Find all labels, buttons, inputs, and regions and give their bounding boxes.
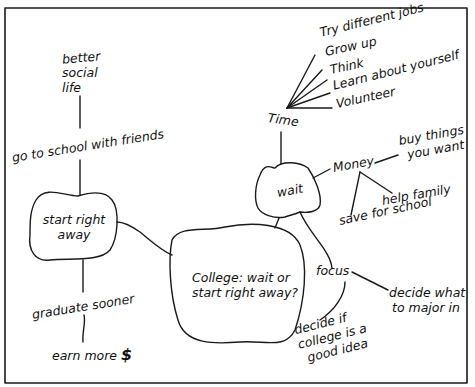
central-node-line1: College: wait or <box>192 270 282 285</box>
mind-map-canvas: College: wait or start right away? start… <box>0 0 475 387</box>
earn-more-text: earn more <box>52 348 117 363</box>
earn-more-label: earn more $ <box>52 347 132 363</box>
central-node-line2: start right away? <box>192 285 282 300</box>
start-right-away-node: start right away <box>38 212 110 242</box>
decide-major-label: decide what to major in <box>389 285 465 315</box>
social-line2: social <box>62 65 100 80</box>
better-social-life-label: better social life <box>62 50 100 95</box>
social-line3: life <box>62 80 100 95</box>
dollar-sign-icon: $ <box>121 345 132 364</box>
focus-label: focus <box>316 263 349 278</box>
major-line1: decide what <box>389 285 465 300</box>
central-node: College: wait or start right away? <box>192 270 282 300</box>
social-line1: better <box>61 48 100 66</box>
major-line2: to major in <box>389 300 465 315</box>
start-node-line2: away <box>38 227 110 242</box>
start-node-line1: start right <box>38 212 110 227</box>
